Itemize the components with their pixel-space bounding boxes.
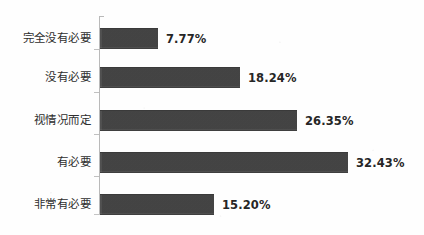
horizontal-bar-chart: 完全没有必要 7.77% 没有必要 18.24% 视情况而定 26.35% 有必… [0,0,424,235]
bar-track: 26.35% [100,110,354,131]
bar-track: 18.24% [100,67,297,88]
bar-value-label: 7.77% [166,32,206,46]
bar [100,67,240,88]
bar [100,152,348,173]
bar-row: 有必要 32.43% [0,152,424,173]
bar-track: 7.77% [100,28,206,49]
category-axis-line [99,16,100,215]
bar-track: 32.43% [100,152,405,173]
axis-tick [94,134,99,135]
category-label: 视情况而定 [0,110,91,131]
category-label: 有必要 [0,152,91,173]
axis-bottom-cap [94,214,100,215]
bar-row: 视情况而定 26.35% [0,110,424,131]
bar [100,110,297,131]
axis-tick [94,92,99,93]
bar-value-label: 32.43% [356,156,405,170]
bar-value-label: 15.20% [222,198,271,212]
bar-row: 完全没有必要 7.77% [0,28,424,49]
bar-row: 没有必要 18.24% [0,67,424,88]
axis-tick [94,176,99,177]
bar [100,194,214,215]
bar-rows: 完全没有必要 7.77% 没有必要 18.24% 视情况而定 26.35% 有必… [0,0,424,235]
category-label: 完全没有必要 [0,28,91,49]
category-label: 没有必要 [0,67,91,88]
bar-row: 非常有必要 15.20% [0,194,424,215]
axis-tick [94,49,99,50]
bar-value-label: 18.24% [248,71,297,85]
bar-track: 15.20% [100,194,271,215]
bar-value-label: 26.35% [305,114,354,128]
bar [100,28,158,49]
category-label: 非常有必要 [0,194,91,215]
